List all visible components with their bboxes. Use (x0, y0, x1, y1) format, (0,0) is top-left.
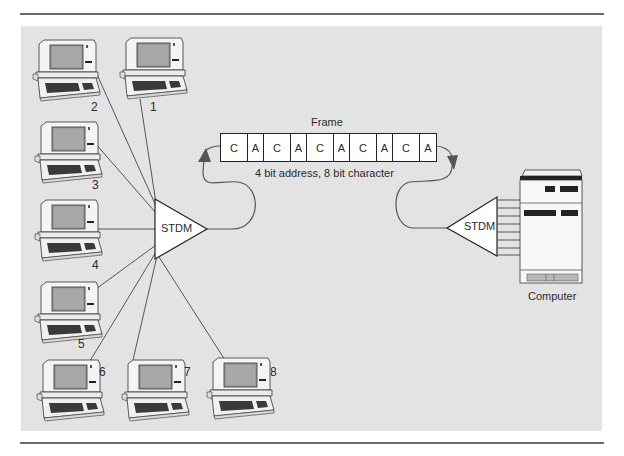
frame-cell-address: A (334, 134, 350, 161)
terminal-7-icon (122, 360, 189, 421)
terminal-5-icon (35, 282, 102, 343)
terminal-1-label: 1 (150, 100, 157, 114)
frame-caption: 4 bit address, 8 bit character (255, 167, 394, 179)
left-link-curve (203, 158, 255, 229)
right-stdm-label: STDM (464, 220, 495, 232)
terminal-5-label: 5 (78, 337, 85, 351)
terminal-1-icon (120, 38, 187, 99)
terminal-4-icon (35, 200, 102, 261)
frame-title: Frame (311, 116, 343, 128)
left-arrowhead-icon (198, 148, 211, 162)
frame-cell-address: A (377, 134, 393, 161)
frame-diagram: C A C A C A C A C A (220, 133, 437, 162)
terminal-3-icon (35, 122, 102, 183)
terminal-7-label: 7 (184, 365, 191, 379)
frame-cell-character: C (264, 134, 291, 161)
computer-cabinet-icon (520, 170, 582, 283)
frame-cell-address: A (420, 134, 436, 161)
computer-label: Computer (528, 290, 576, 302)
frame-cell-character: C (350, 134, 377, 161)
right-link-curve (396, 166, 452, 228)
terminal-8-label: 8 (270, 365, 277, 379)
bottom-rule (20, 442, 604, 444)
terminal-6-icon (37, 360, 104, 421)
terminal-2-label: 2 (91, 100, 98, 114)
frame-cell-address: A (248, 134, 264, 161)
frame-cell-address: A (291, 134, 307, 161)
terminal-6-label: 6 (99, 365, 106, 379)
terminal-4-label: 4 (92, 258, 99, 272)
diagram-canvas (0, 0, 624, 456)
frame-cell-character: C (221, 134, 248, 161)
terminal-8-icon (207, 358, 274, 419)
frame-cell-character: C (393, 134, 420, 161)
terminal-2-icon (33, 40, 100, 101)
frame-cell-character: C (307, 134, 334, 161)
terminal-3-label: 3 (92, 178, 99, 192)
computer-links (497, 200, 520, 255)
left-stdm-label: STDM (161, 222, 192, 234)
